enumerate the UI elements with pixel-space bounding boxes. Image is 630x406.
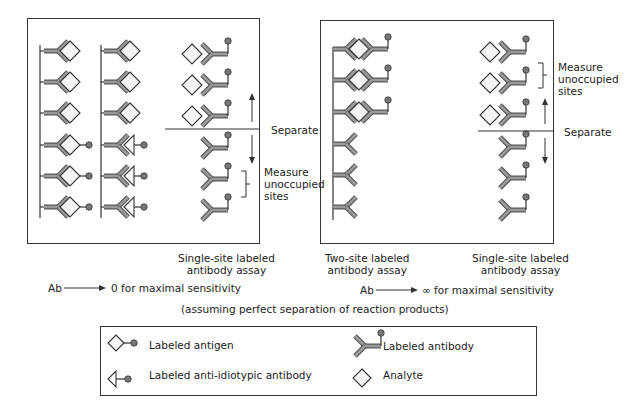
solid-phase-antibody — [40, 197, 92, 217]
solid-phase-antibody — [40, 135, 92, 155]
solid-phase-antibody — [101, 135, 147, 155]
solid-phase-antibody — [40, 41, 80, 61]
legend-label: Labeled antigen — [149, 339, 234, 351]
labeled-antibody-icon — [500, 162, 529, 188]
labeled-antibody-icon — [202, 132, 231, 158]
arrow-right-icon — [99, 285, 106, 291]
left-assay-caption: Single-site labeled antibody assay — [178, 252, 275, 276]
solid-phase-antibody — [101, 41, 140, 61]
assumption-note: (assuming perfect separation of reaction… — [181, 303, 449, 315]
label-ball-icon — [523, 131, 529, 137]
label-ball-icon — [86, 204, 92, 210]
right-measure-label: Measure unoccupied sites — [558, 61, 619, 97]
label-ball-icon — [385, 97, 391, 103]
bracket-icon — [538, 63, 543, 88]
legend-item-labeled-antibody: Labeled antibody — [383, 334, 474, 358]
analyte-icon — [182, 75, 202, 95]
legend-item-analyte: Analyte — [383, 363, 423, 387]
analyte-bound-labeled-antibody-icon — [480, 36, 529, 62]
label-ball-icon — [141, 173, 147, 179]
arrow-right-icon — [411, 287, 418, 293]
analyte-bound-labeled-antibody-icon — [182, 38, 231, 64]
arrow-down-icon — [249, 157, 255, 164]
two-site-caption: Two-site labeled antibody assay — [325, 252, 410, 276]
label-ball-icon — [141, 204, 147, 210]
solid-phase-antibody — [40, 103, 80, 123]
legend-item-anti-idiotypic: Labeled anti-idiotypic antibody — [149, 363, 312, 387]
left-panel-art — [40, 38, 260, 220]
analyte-bound-labeled-antibody-icon — [480, 99, 529, 125]
label-ball-icon — [225, 132, 231, 138]
analyte-icon — [182, 106, 202, 126]
legend-label: Labeled anti-idiotypic antibody — [149, 369, 312, 381]
label-ball-icon — [141, 142, 147, 148]
bracket-icon — [241, 171, 246, 197]
solid-phase-antibody — [101, 103, 140, 123]
legend-box: Labeled antigen Labeled antibody Labeled… — [100, 326, 537, 396]
analyte-icon — [480, 42, 500, 62]
label-ball-icon — [523, 162, 529, 168]
labeled-antibody-icon — [500, 131, 529, 157]
legend-item-labeled-antigen: Labeled antigen — [149, 333, 234, 357]
solid-phase-antibody — [333, 197, 356, 217]
solid-phase-antibody — [101, 197, 147, 217]
right-separate-label: Separate — [564, 126, 612, 138]
left-measure-label: Measure unoccupied sites — [264, 166, 325, 202]
solid-phase-antibody — [101, 166, 147, 186]
sandwich-complex — [333, 97, 391, 122]
label-ball-icon — [523, 99, 529, 105]
analyte-bound-labeled-antibody-icon — [182, 100, 231, 126]
sandwich-complex — [333, 65, 391, 90]
analyte-icon — [182, 44, 202, 64]
label-ball-icon — [225, 194, 231, 200]
legend-label: Analyte — [383, 369, 423, 381]
labeled-antibody-icon — [500, 194, 529, 220]
sandwich-complex — [333, 34, 391, 59]
label-ball-icon — [225, 163, 231, 169]
left-sensitivity-rule: 0 for maximal sensitivity — [111, 282, 241, 294]
right-panel-art — [333, 34, 553, 220]
label-ball-icon — [225, 100, 231, 106]
solid-phase-antibody — [101, 72, 140, 92]
left-ab-label: Ab — [48, 282, 62, 294]
arrow-down-icon — [542, 157, 548, 164]
right-single-site-caption: Single-site labeled antibody assay — [472, 252, 569, 276]
label-ball-icon — [225, 69, 231, 75]
left-separate-label: Separate — [271, 124, 319, 136]
labeled-antibody-icon — [202, 163, 231, 189]
solid-phase-antibody — [333, 134, 356, 154]
solid-phase-antibody — [40, 72, 80, 92]
label-ball-icon — [385, 34, 391, 40]
label-ball-icon — [523, 36, 529, 42]
analyte-icon — [480, 105, 500, 125]
right-ab-label: Ab — [360, 284, 374, 296]
right-sensitivity-rule: ∞ for maximal sensitivity — [422, 284, 554, 296]
label-ball-icon — [523, 67, 529, 73]
arrow-up-icon — [542, 98, 548, 105]
label-ball-icon — [523, 194, 529, 200]
arrow-up-icon — [249, 93, 255, 100]
analyte-bound-labeled-antibody-icon — [480, 67, 529, 93]
analyte-bound-labeled-antibody-icon — [182, 69, 231, 95]
solid-phase-antibody — [333, 165, 356, 185]
legend-label: Labeled antibody — [383, 340, 474, 352]
labeled-antibody-icon — [202, 194, 231, 220]
analyte-icon — [480, 73, 500, 93]
label-ball-icon — [385, 65, 391, 71]
label-ball-icon — [225, 38, 231, 44]
label-ball-icon — [86, 142, 92, 148]
label-ball-icon — [86, 173, 92, 179]
solid-phase-antibody — [40, 166, 92, 186]
